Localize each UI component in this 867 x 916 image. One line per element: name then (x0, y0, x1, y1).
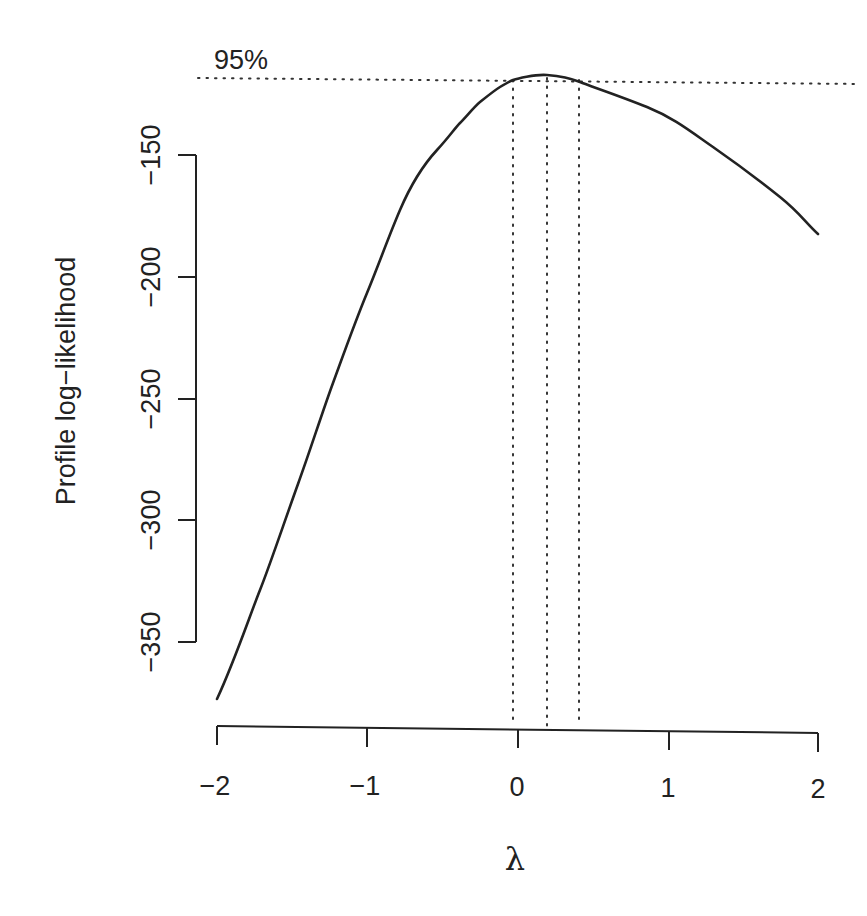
x-tick-label: −1 (350, 771, 381, 801)
ci-reference-lines (198, 78, 860, 726)
x-tick-labels: −2 −1 0 1 2 (200, 771, 826, 804)
y-axis-label: Profile log−likelihood (51, 257, 81, 505)
x-tick-label: 0 (509, 772, 524, 802)
y-tick-label: −350 (136, 612, 166, 673)
x-tick-label: 2 (810, 774, 825, 804)
y-tick-labels: −150 −200 −250 −300 −350 (136, 125, 166, 673)
y-tick-label: −200 (136, 247, 166, 308)
y-axis (178, 155, 196, 642)
likelihood-curve (217, 75, 818, 699)
profile-likelihood-chart: −150 −200 −250 −300 −350 Profile log−lik… (0, 0, 867, 916)
y-tick-label: −300 (136, 490, 166, 551)
x-axis (217, 726, 818, 752)
x-axis-label: λ (505, 840, 525, 878)
x-tick-label: 1 (660, 773, 675, 803)
ci-horizontal-line (198, 78, 860, 84)
x-tick-label: −2 (200, 771, 231, 801)
ci-label: 95% (214, 45, 268, 75)
y-tick-label: −150 (136, 125, 166, 186)
y-tick-label: −250 (136, 369, 166, 430)
